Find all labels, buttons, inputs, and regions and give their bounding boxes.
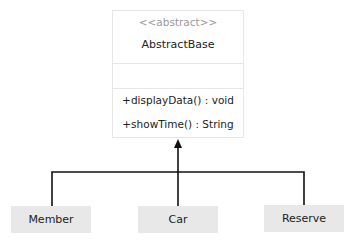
- subclass-reserve: Reserve: [264, 205, 344, 232]
- attributes-section: [113, 64, 243, 89]
- class-name: AbstractBase: [113, 38, 243, 51]
- stereotype-label: <<abstract>>: [113, 16, 243, 28]
- operation-display-data: +displayData() : void: [113, 94, 243, 106]
- operations-section: +displayData() : void +showTime() : Stri…: [113, 89, 243, 137]
- subclass-member: Member: [11, 206, 91, 233]
- arrowhead-icon: [174, 139, 182, 148]
- class-name-section: <<abstract>> AbstractBase: [113, 11, 243, 64]
- abstract-base-class: <<abstract>> AbstractBase +displayData()…: [112, 10, 244, 138]
- subclass-car: Car: [138, 206, 218, 233]
- operation-show-time: +showTime() : String: [113, 118, 243, 130]
